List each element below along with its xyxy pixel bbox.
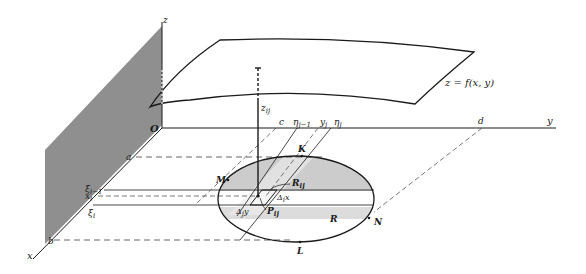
label-xi: ξi <box>88 208 95 220</box>
origin-label: O <box>150 123 159 134</box>
label-eta-prev: ηj−1 <box>293 117 311 129</box>
figure-root: z O y x z = f(x, y) a b c d ξi−1 xi ξi η… <box>0 0 586 274</box>
diagram-canvas: z O y x z = f(x, y) a b c d ξi−1 xi ξi η… <box>0 0 586 274</box>
label-c: c <box>279 117 284 127</box>
xz-wall <box>45 26 162 244</box>
z-axis-label: z <box>162 15 168 25</box>
label-M: M <box>215 175 227 185</box>
label-eta: ηj <box>334 117 342 129</box>
sample-point-dot <box>256 194 259 197</box>
point-N-dot <box>368 217 371 220</box>
label-zij: zij <box>260 103 271 115</box>
d-dashed <box>374 128 482 212</box>
surface-label: z = f(x, y) <box>444 77 494 88</box>
label-a: a <box>126 152 131 162</box>
point-K-dot <box>301 155 304 158</box>
x-axis-label: x <box>27 250 33 261</box>
label-R: R <box>329 214 338 224</box>
label-d: d <box>478 116 484 126</box>
point-M-dot <box>227 179 230 182</box>
label-L: L <box>296 246 303 256</box>
label-K: K <box>297 144 307 154</box>
label-N: N <box>373 217 383 227</box>
surface-patch <box>150 39 474 107</box>
label-b: b <box>48 236 54 246</box>
y-axis-label: y <box>546 115 553 126</box>
point-L-dot <box>299 241 302 244</box>
label-y-j: yj <box>319 117 328 129</box>
